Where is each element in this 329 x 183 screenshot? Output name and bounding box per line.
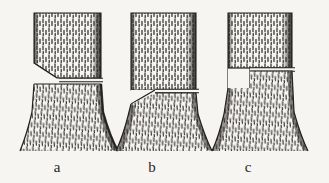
caption-label-b: b [148, 159, 156, 175]
caption-label-c: c [245, 159, 252, 175]
panel-a-upper-trunk [34, 13, 101, 78]
panel-a-back-cut [59, 78, 103, 82]
panel-c-notch-void [228, 68, 250, 88]
caption-label-a: a [54, 159, 61, 175]
panel-b-upper-trunk [131, 13, 196, 90]
felling-cuts-svg: a b c [0, 0, 329, 183]
figure-plate: a b c [0, 0, 329, 183]
panel-b-back-cut [155, 89, 199, 92]
